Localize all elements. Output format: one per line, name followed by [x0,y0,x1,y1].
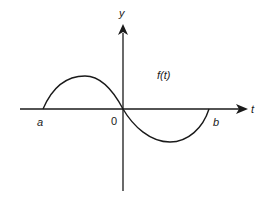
function-label: f(t) [157,70,170,81]
point-a-label: a [37,117,43,128]
origin-label: 0 [111,116,117,127]
y-axis-label: y [119,8,125,19]
point-b-label: b [213,117,219,128]
t-axis-label: t [251,104,254,115]
function-diagram: y f(t) t a 0 b [0,0,269,204]
diagram-svg [0,0,269,204]
